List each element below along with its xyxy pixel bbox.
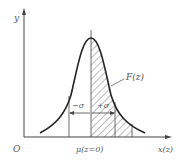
y-axis-label: y <box>13 13 20 23</box>
x-axis-label: x(z) <box>158 145 173 154</box>
x-axis-arrow-icon <box>165 135 172 139</box>
origin-label: O <box>13 144 21 154</box>
minus-sigma-label: −σ <box>72 101 85 110</box>
y-axis-arrow-icon <box>22 8 26 15</box>
area-leader-line <box>111 79 124 86</box>
mean-label: μ(z=0) <box>76 145 103 154</box>
area-label: F(z) <box>125 72 144 82</box>
normal-distribution-diagram: y O x(z) μ(z=0) −σ +σ F(z) <box>0 0 196 163</box>
arrowhead-icon <box>69 111 74 115</box>
plus-sigma-label: +σ <box>97 101 110 110</box>
